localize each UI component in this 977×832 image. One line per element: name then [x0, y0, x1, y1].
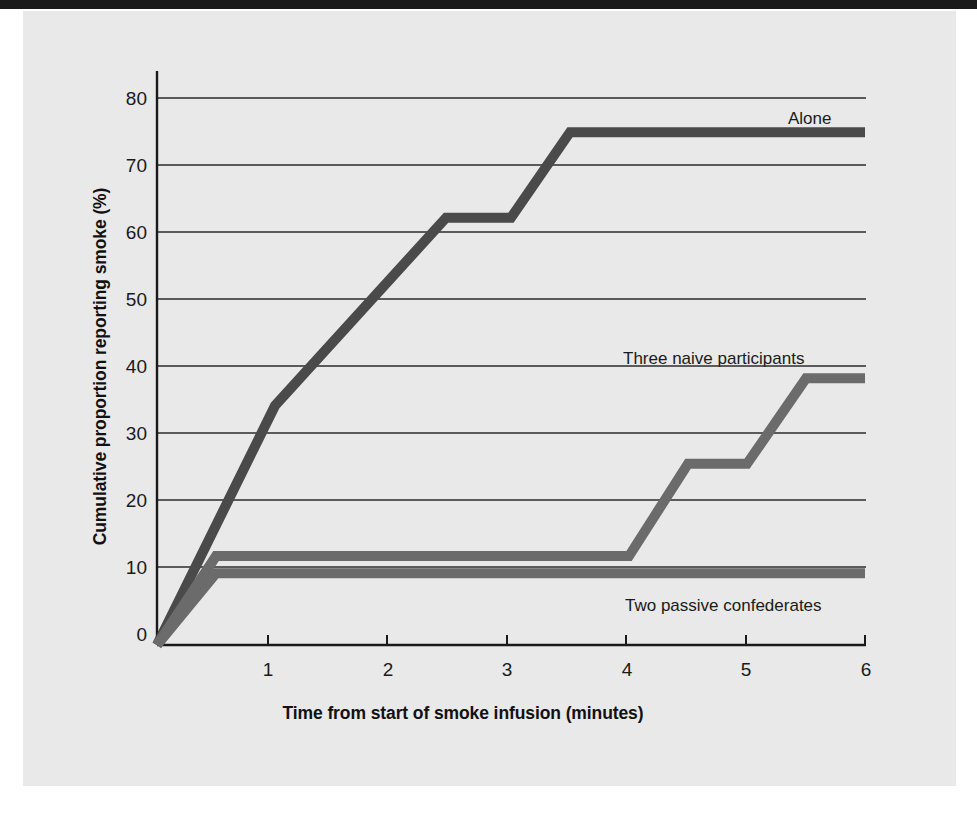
x-axis-ticks: [268, 635, 865, 645]
top-rule-divider: [0, 0, 977, 9]
plot-area: Cumulative proportion reporting smoke (%…: [23, 11, 956, 786]
chart-figure-panel: Cumulative proportion reporting smoke (%…: [23, 11, 956, 786]
series-line-two-passive-confederates: [157, 573, 865, 645]
gridlines: [157, 98, 866, 567]
chart-canvas: [23, 11, 956, 786]
figure-root: Cumulative proportion reporting smoke (%…: [0, 0, 977, 832]
data-series-group: [157, 132, 865, 645]
series-line-alone: [157, 132, 865, 645]
